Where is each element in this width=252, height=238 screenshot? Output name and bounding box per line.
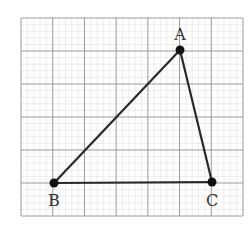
side-ca [180,50,212,182]
vertex-label-b: B [48,191,60,210]
vertex-point-a [176,46,185,55]
vertex-point-b [50,179,59,188]
side-bc [54,182,212,183]
triangle-diagram: A B C [0,0,252,238]
vertex-point-c [208,178,217,187]
vertex-label-c: C [206,191,218,210]
vertex-label-a: A [173,25,186,44]
